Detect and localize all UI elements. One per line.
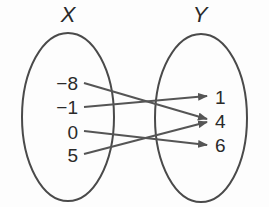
range-value: 6 <box>215 135 226 156</box>
diagram-canvas: X Y −8 −1 0 5 1 4 6 <box>0 0 269 207</box>
domain-value: −1 <box>56 97 78 118</box>
domain-set-label: X <box>60 2 77 27</box>
range-value: 1 <box>215 87 226 108</box>
range-value: 4 <box>215 111 226 132</box>
domain-value: −8 <box>56 73 78 94</box>
domain-value: 5 <box>67 145 78 166</box>
domain-value: 0 <box>67 122 78 143</box>
range-set-label: Y <box>193 2 209 27</box>
arrow-5-to-4 <box>84 122 207 154</box>
arrow-neg1-to-1 <box>84 96 207 107</box>
mapping-diagram: X Y −8 −1 0 5 1 4 6 <box>0 0 269 207</box>
